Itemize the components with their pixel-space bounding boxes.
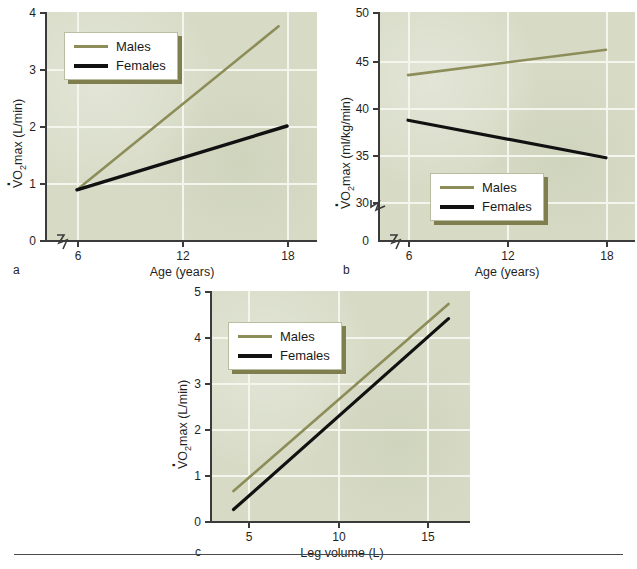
gridline-y-35 [380, 155, 635, 157]
y-tick-35 [373, 155, 378, 157]
y-tick-5 [205, 291, 210, 293]
panel-a: 0 1 2 3 4 6 12 18 Age (years) VO2max (L/… [0, 0, 330, 280]
gridline-y-1 [212, 475, 470, 477]
y-axis-a [45, 12, 47, 242]
y-axis-c [210, 291, 212, 523]
v-dot-glyph: V [176, 461, 190, 469]
y-tick-50 [373, 12, 378, 14]
y-tick-4 [205, 337, 210, 339]
legend-swatch-males-icon [238, 335, 272, 338]
legend-swatch-males-icon [440, 186, 474, 189]
legend-a: Males Females [64, 32, 178, 80]
y-tick-label-3: 3 [22, 64, 36, 76]
x-tick-label-6: 6 [75, 250, 82, 262]
x-tick-label-18: 18 [600, 250, 613, 262]
panel-letter-a: a [13, 264, 20, 276]
x-tick-12 [507, 242, 509, 247]
x-tick-18 [287, 242, 289, 247]
y-axis-title-o: O [176, 451, 190, 461]
legend-item-males: Males [74, 40, 166, 53]
y-tick-0 [205, 521, 210, 523]
x-axis-title-a: Age (years) [150, 266, 215, 279]
legend-swatch-females-icon [440, 205, 474, 209]
panel-letter-b: b [343, 264, 350, 276]
x-tick-label-10: 10 [332, 531, 345, 543]
y-tick-0 [40, 240, 45, 242]
x-axis-a [45, 240, 317, 242]
v-dot-glyph: V [339, 201, 353, 209]
x-tick-label-6: 6 [406, 250, 413, 262]
legend-swatch-females-icon [74, 64, 108, 68]
x-tick-label-12: 12 [176, 250, 189, 262]
x-tick-label-18: 18 [281, 250, 294, 262]
legend-b: Males Females [430, 173, 544, 221]
y-tick-label-4: 4 [187, 332, 201, 344]
y-axis-title-sub: 2 [346, 186, 356, 191]
legend-label-males: Males [280, 330, 315, 343]
y-axis-title-rest: max (L/min) [11, 99, 25, 165]
y-tick-label-5: 5 [187, 286, 201, 298]
y-tick-label-1: 1 [187, 470, 201, 482]
x-tick-5 [248, 523, 250, 528]
x-tick-15 [427, 523, 429, 528]
y-axis-title-sub: 2 [183, 446, 193, 451]
gridline-x-18 [606, 12, 608, 240]
y-axis-title-o: O [11, 170, 25, 180]
x-tick-6 [77, 242, 79, 247]
y-tick-2 [40, 126, 45, 128]
gridline-y-3 [212, 383, 470, 385]
y-tick-3 [205, 383, 210, 385]
y-axis-title-a: VO2max (L/min) [12, 99, 28, 188]
legend-label-males: Males [482, 181, 517, 194]
panel-letter-c: c [195, 546, 201, 558]
y-tick-3 [40, 69, 45, 71]
legend-item-males: Males [440, 181, 532, 194]
gridline-y-2 [47, 126, 317, 128]
gridline-x-15 [427, 291, 429, 521]
v-dot-glyph: V [11, 180, 25, 188]
x-tick-12 [182, 242, 184, 247]
y-tick-label-50: 50 [349, 7, 369, 19]
gridline-y-40 [380, 108, 635, 110]
x-tick-6 [408, 242, 410, 247]
legend-item-females: Females [440, 200, 532, 213]
y-axis-title-o: O [339, 191, 353, 201]
gridline-y-1 [47, 183, 317, 185]
x-tick-label-15: 15 [421, 531, 434, 543]
gridline-x-6 [408, 12, 410, 240]
legend-label-females: Females [280, 349, 330, 362]
legend-label-females: Females [116, 59, 166, 72]
panel-b: 30 35 40 45 50 0 6 12 18 Age (years) VO2… [330, 0, 637, 280]
legend-c: Males Females [228, 322, 342, 370]
y-axis-title-sub: 2 [18, 165, 28, 170]
gridline-y-2 [212, 429, 470, 431]
y-tick-4 [40, 12, 45, 14]
y-tick-label-zero: 0 [349, 235, 369, 247]
x-tick-label-12: 12 [501, 250, 514, 262]
y-axis-b [378, 12, 380, 242]
legend-item-females: Females [238, 349, 330, 362]
legend-label-males: Males [116, 40, 151, 53]
legend-item-females: Females [74, 59, 166, 72]
y-tick-30 [373, 202, 378, 204]
y-tick-45 [373, 61, 378, 63]
x-axis-title-b: Age (years) [475, 266, 540, 279]
figure-bottom-rule [14, 554, 623, 555]
legend-item-males: Males [238, 330, 330, 343]
panel-c: 0 1 2 3 4 5 5 10 15 Leg volume (L) VO2ma… [160, 283, 500, 569]
y-tick-label-4: 4 [22, 7, 36, 19]
legend-swatch-females-icon [238, 354, 272, 358]
y-tick-2 [205, 429, 210, 431]
figure-root: 0 1 2 3 4 6 12 18 Age (years) VO2max (L/… [0, 0, 637, 569]
legend-label-females: Females [482, 200, 532, 213]
y-tick-40 [373, 108, 378, 110]
y-axis-title-rest: max (ml/kg/min) [339, 97, 353, 186]
x-tick-10 [338, 523, 340, 528]
legend-swatch-males-icon [74, 45, 108, 48]
y-tick-label-0: 0 [187, 516, 201, 528]
x-tick-label-5: 5 [246, 531, 253, 543]
y-axis-title-rest: max (L/min) [176, 380, 190, 446]
y-tick-label-0: 0 [22, 235, 36, 247]
y-tick-1 [40, 183, 45, 185]
gridline-y-45 [380, 61, 635, 63]
